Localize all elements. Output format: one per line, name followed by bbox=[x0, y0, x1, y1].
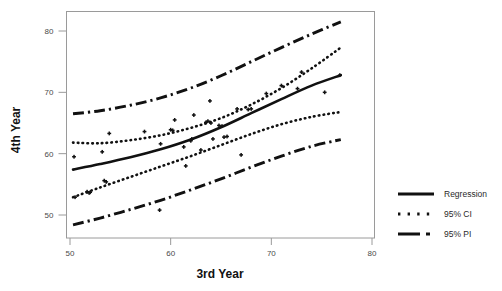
chart-canvas: 50607080 50607080 4th Year 3rd Year Regr… bbox=[0, 0, 502, 291]
data-point bbox=[159, 142, 163, 146]
data-point bbox=[208, 99, 212, 103]
y-axis-title: 4th Year bbox=[9, 106, 23, 153]
data-point bbox=[323, 90, 327, 94]
data-point bbox=[239, 153, 243, 157]
y-tick-label-50: 50 bbox=[45, 211, 54, 220]
data-point bbox=[158, 208, 162, 212]
curves-group bbox=[73, 22, 341, 225]
legend-label: 95% PI bbox=[444, 229, 471, 239]
data-point bbox=[173, 118, 177, 122]
data-point bbox=[184, 164, 188, 168]
y-tick-label-70: 70 bbox=[45, 88, 54, 97]
data-point bbox=[211, 137, 215, 141]
data-point bbox=[235, 107, 239, 111]
x-axis-tick-labels: 50607080 bbox=[66, 249, 377, 258]
x-tick-label-80: 80 bbox=[368, 249, 377, 258]
data-point bbox=[107, 132, 111, 136]
y-axis-tick-labels: 50607080 bbox=[45, 27, 54, 220]
regression-plot-figure: 50607080 50607080 4th Year 3rd Year Regr… bbox=[0, 0, 502, 291]
legend-item-95-pi: 95% PI bbox=[398, 229, 471, 239]
y-axis-ticks bbox=[59, 31, 67, 215]
data-point bbox=[192, 113, 196, 117]
legend-item-regression: Regression bbox=[398, 189, 487, 199]
data-point bbox=[143, 130, 147, 134]
data-point bbox=[72, 155, 76, 159]
curve-95-ci-upper bbox=[73, 48, 341, 144]
data-point bbox=[100, 150, 104, 154]
x-tick-label-60: 60 bbox=[166, 249, 175, 258]
scatter-points-group bbox=[72, 70, 342, 212]
curve-95-pi-upper bbox=[73, 22, 341, 114]
data-point bbox=[182, 145, 186, 149]
y-tick-label-60: 60 bbox=[45, 150, 54, 159]
y-tick-label-80: 80 bbox=[45, 27, 54, 36]
x-tick-label-50: 50 bbox=[66, 249, 75, 258]
x-tick-label-70: 70 bbox=[267, 249, 276, 258]
legend-item-95-ci: 95% CI bbox=[398, 209, 472, 219]
x-axis-ticks bbox=[70, 238, 372, 245]
legend-label: 95% CI bbox=[444, 209, 472, 219]
data-point bbox=[264, 92, 268, 96]
curve-95-ci-lower bbox=[73, 112, 341, 197]
legend: Regression95% CI95% PI bbox=[398, 189, 487, 239]
legend-label: Regression bbox=[444, 189, 487, 199]
data-point bbox=[199, 148, 203, 152]
x-axis-title: 3rd Year bbox=[196, 267, 243, 281]
